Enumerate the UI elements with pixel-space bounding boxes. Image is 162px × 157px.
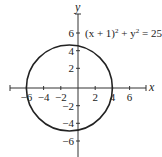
x-tick-label: −4 xyxy=(38,91,50,103)
x-tick-label: −6 xyxy=(21,91,33,103)
x-axis-label: x xyxy=(148,80,155,94)
y-tick-label: 2 xyxy=(69,62,75,74)
equation-label: (x + 1)2 + y2 = 25 xyxy=(85,27,162,40)
y-tick-label: −6 xyxy=(62,135,74,147)
circle-graph: −6 −4 −2 2 4 6 6 4 2 −2 −4 −6 x y (x + 1… xyxy=(0,0,162,157)
x-tick-label: 4 xyxy=(110,91,116,103)
y-tick-label: 4 xyxy=(69,45,75,57)
x-tick-label: 6 xyxy=(127,91,133,103)
y-tick-label: −2 xyxy=(62,100,74,112)
y-tick-label: 6 xyxy=(69,27,75,39)
x-tick-label: 2 xyxy=(92,91,98,103)
y-tick-label: −4 xyxy=(62,117,74,129)
y-axis-label: y xyxy=(74,0,81,14)
